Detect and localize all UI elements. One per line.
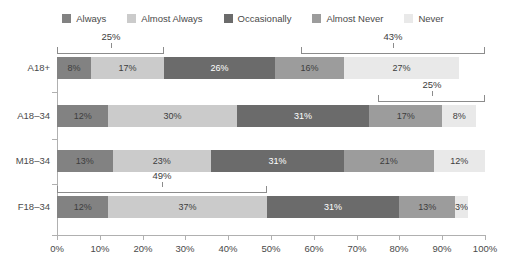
bar-row: 8%17%26%16%27% <box>57 57 485 79</box>
legend-swatch-icon <box>224 14 233 23</box>
bar-segment[interactable]: 17% <box>369 105 442 127</box>
bar-segment[interactable]: 16% <box>275 57 343 79</box>
bar-segment[interactable]: 8% <box>57 57 91 79</box>
x-axis-tick <box>485 236 486 240</box>
category-label: A18–34 <box>0 110 50 121</box>
legend-item-almost-never[interactable]: Almost Never <box>312 14 383 24</box>
legend-item-almost-always[interactable]: Almost Always <box>127 14 202 24</box>
legend-swatch-icon <box>127 14 136 23</box>
x-axis-tick <box>357 236 358 240</box>
legend-item-never[interactable]: Never <box>404 14 443 24</box>
bar-segment[interactable]: 31% <box>211 150 344 172</box>
legend-swatch-icon <box>404 14 413 23</box>
category-label: M18–34 <box>0 155 50 166</box>
x-axis-tick <box>442 236 443 240</box>
category-label: A18+ <box>0 62 50 73</box>
legend-swatch-icon <box>312 14 321 23</box>
legend-label: Always <box>76 14 106 24</box>
annotation-bracket <box>57 47 164 54</box>
x-axis-tick <box>314 236 315 240</box>
annotation-bracket-stem <box>393 43 394 48</box>
x-axis-label: 100% <box>473 243 497 254</box>
x-axis-tick <box>57 236 58 240</box>
bar-segment[interactable]: 37% <box>108 196 266 218</box>
x-axis-tick <box>271 236 272 240</box>
legend-label: Almost Always <box>141 14 202 24</box>
legend-label: Never <box>418 14 443 24</box>
bar-segment[interactable]: 3% <box>455 196 468 218</box>
annotation-bracket-stem <box>111 43 112 48</box>
legend-label: Occasionally <box>238 14 292 24</box>
legend-swatch-icon <box>62 14 71 23</box>
bar-segment[interactable]: 27% <box>344 57 460 79</box>
x-axis-label: 90% <box>432 243 451 254</box>
plot-area: 8%17%26%16%27%12%30%31%17%8%13%23%31%21%… <box>57 57 485 235</box>
bar-row: 12%30%31%17%8% <box>57 105 485 127</box>
bar-segment[interactable]: 17% <box>91 57 164 79</box>
x-axis-label: 80% <box>389 243 408 254</box>
legend-item-always[interactable]: Always <box>62 14 106 24</box>
chart-legend: AlwaysAlmost AlwaysOccasionallyAlmost Ne… <box>0 14 506 24</box>
bar-row: 12%37%31%13%3% <box>57 196 485 218</box>
x-axis-label: 60% <box>304 243 323 254</box>
legend-item-occasionally[interactable]: Occasionally <box>224 14 292 24</box>
bar-segment[interactable]: 26% <box>164 57 275 79</box>
bar-segment[interactable]: 12% <box>434 150 485 172</box>
bar-segment[interactable]: 31% <box>237 105 370 127</box>
x-axis-label: 20% <box>133 243 152 254</box>
stacked-bar-chart: AlwaysAlmost AlwaysOccasionallyAlmost Ne… <box>0 0 506 266</box>
bar-segment[interactable]: 12% <box>57 196 108 218</box>
x-axis-label: 70% <box>347 243 366 254</box>
annotation-label: 25% <box>101 31 120 42</box>
bar-segment[interactable]: 23% <box>113 150 211 172</box>
x-axis-tick <box>228 236 229 240</box>
x-axis-tick <box>399 236 400 240</box>
bar-segment[interactable]: 31% <box>267 196 400 218</box>
category-label: F18–34 <box>0 201 50 212</box>
bar-segment[interactable]: 13% <box>399 196 455 218</box>
bar-segment[interactable]: 12% <box>57 105 108 127</box>
x-axis-label: 30% <box>175 243 194 254</box>
annotation-label: 43% <box>383 31 402 42</box>
x-axis-tick <box>185 236 186 240</box>
bar-segment[interactable]: 30% <box>108 105 236 127</box>
x-axis-label: 10% <box>90 243 109 254</box>
x-axis-label: 50% <box>261 243 280 254</box>
annotation-bracket <box>301 47 485 54</box>
bar-segment[interactable]: 8% <box>442 105 476 127</box>
legend-label: Almost Never <box>326 14 383 24</box>
x-axis-label: 40% <box>218 243 237 254</box>
bar-row: 13%23%31%21%12% <box>57 150 485 172</box>
x-axis-tick <box>100 236 101 240</box>
bar-segment[interactable]: 13% <box>57 150 113 172</box>
x-axis-label: 0% <box>50 243 64 254</box>
x-axis-tick <box>143 236 144 240</box>
bar-segment[interactable]: 21% <box>344 150 434 172</box>
